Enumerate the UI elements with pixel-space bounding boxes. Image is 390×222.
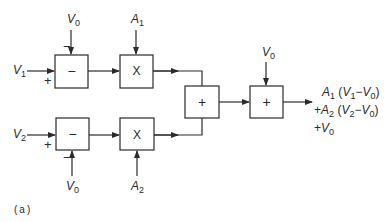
input-a2-label: A2: [131, 180, 144, 195]
output-line-2: +A2 (V2−V0): [314, 103, 379, 121]
sub2-minus-sign: −: [63, 151, 71, 164]
figure-caption: (a): [14, 204, 32, 215]
output-expression: A1 (V1−V0) +A2 (V2−V0) +V0: [314, 85, 379, 139]
output-line-1: A1 (V1−V0): [314, 85, 379, 103]
subtractor-1-symbol: −: [55, 64, 88, 78]
input-v2-label: V2: [13, 128, 26, 143]
adder-2-symbol: +: [250, 95, 283, 109]
input-v0-bottom-label: V0: [66, 180, 79, 195]
output-line-3: +V0: [314, 121, 379, 139]
multiplier-2-symbol: X: [120, 129, 154, 141]
subtractor-2-symbol: −: [56, 127, 89, 141]
wire-mul2-sum1: [154, 118, 202, 135]
sub1-plus-sign: +: [44, 74, 52, 87]
multiplier-1-symbol: X: [120, 65, 153, 77]
input-v0-top-label: V0: [67, 13, 80, 28]
adder-1-symbol: +: [185, 95, 219, 109]
input-v1-label: V1: [13, 64, 26, 79]
sub2-plus-sign: +: [44, 138, 52, 151]
sub1-minus-sign: −: [63, 40, 71, 53]
input-v0-sum-label: V0: [262, 46, 275, 61]
wire-mul1-sum1: [153, 71, 202, 86]
input-a1-label: A1: [131, 13, 144, 28]
